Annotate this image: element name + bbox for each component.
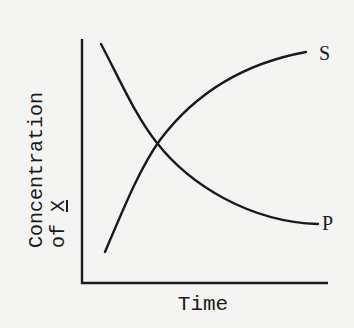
series-label-s: S (319, 42, 330, 65)
y-axis-label-prefix: of (47, 212, 70, 248)
x-axis-label: Time (178, 293, 228, 316)
y-axis-label-line2: of X (48, 92, 70, 248)
curve-s (105, 52, 306, 252)
y-axis-label-line1: Concentration (26, 92, 48, 248)
y-axis-variable: X (47, 200, 70, 212)
series-label-p: P (322, 212, 333, 235)
chart-area: Concentration of X Time S P (0, 0, 354, 328)
curve-p (101, 44, 318, 224)
y-axis-label: Concentration of X (26, 92, 70, 248)
